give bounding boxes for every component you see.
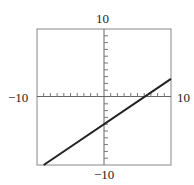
- y-max-label: 10: [96, 12, 109, 25]
- data-line: [44, 79, 171, 165]
- graph-plot: [0, 0, 194, 185]
- y-min-label: −10: [94, 168, 114, 181]
- x-min-label: −10: [8, 91, 28, 104]
- x-max-label: 10: [177, 91, 190, 104]
